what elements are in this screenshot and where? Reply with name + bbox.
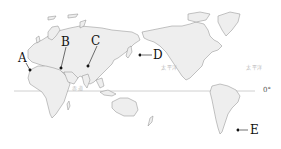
marker-label-a: A	[18, 52, 27, 64]
africa	[28, 66, 70, 118]
point-e	[237, 129, 239, 131]
ocean-label-pacific-east: 太平洋	[246, 65, 263, 70]
arctic-island-1	[48, 16, 56, 20]
arctic-island-2	[68, 14, 78, 18]
landmasses	[28, 12, 240, 134]
australia	[112, 98, 138, 116]
greenland	[218, 12, 240, 36]
point-c	[87, 65, 89, 67]
india	[82, 74, 90, 88]
point-a	[29, 69, 31, 71]
world-map	[0, 0, 281, 149]
southeast-asia	[96, 78, 104, 88]
marker-label-d: D	[153, 49, 163, 61]
point-d	[139, 54, 141, 56]
madagascar	[67, 101, 70, 110]
equator-degree-label: 0°	[263, 87, 271, 94]
canadian-archipelago	[188, 12, 210, 22]
marker-label-c: C	[91, 35, 100, 47]
point-b	[60, 67, 62, 69]
marker-label-b: B	[61, 36, 70, 48]
south-america	[210, 84, 240, 134]
equator-text: 赤道	[72, 86, 83, 91]
ocean-label-pacific-west: 太平洋	[161, 65, 178, 70]
marker-label-e: E	[250, 124, 259, 136]
new-zealand	[148, 116, 153, 126]
